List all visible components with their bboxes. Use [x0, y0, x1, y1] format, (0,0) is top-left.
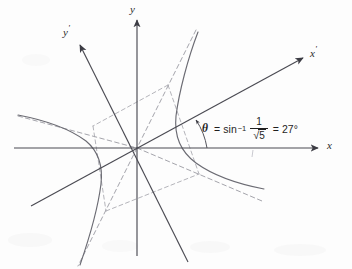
box-edge-top	[93, 85, 168, 126]
angle-value: 27°	[282, 124, 298, 135]
box-edge-bottom	[106, 174, 199, 211]
fraction-denominator: √5	[250, 129, 268, 141]
fraction-numerator: 1	[254, 117, 264, 128]
x-axis-label: x	[327, 140, 332, 151]
inverse-exponent: −1	[238, 125, 247, 133]
y-prime-mark: '	[68, 23, 70, 33]
hyperbola-branch-upper-right	[176, 32, 264, 189]
y-axis-label: y	[130, 4, 135, 15]
angle-equation: θ = sin−1 1 √5 = 27°	[202, 117, 298, 141]
equals-sign-2: =	[273, 124, 279, 135]
radicand: 5	[258, 129, 266, 141]
fraction-one-over-root-five: 1 √5	[250, 117, 268, 141]
x-axis-tick	[252, 150, 253, 157]
asymptote-shallow-upper	[18, 116, 137, 148]
diagram-svg	[0, 0, 352, 269]
page-showthrough	[8, 54, 326, 256]
equals-sign-1: =	[214, 124, 220, 135]
theta-symbol: θ	[202, 123, 208, 135]
x-prime-mark: '	[315, 44, 317, 54]
asymptote-steep-upper	[137, 30, 196, 148]
x-prime-axis-label: x'	[310, 45, 317, 59]
y-prime-axis-label: y'	[63, 24, 70, 38]
sine-function-name: sin	[223, 124, 237, 135]
rotated-axes	[31, 45, 303, 262]
square-root: √5	[252, 130, 266, 141]
asymptote-shallow-lower	[137, 148, 262, 201]
figure-canvas: y x x' y' θ = sin−1 1 √5 = 27°	[0, 0, 352, 269]
